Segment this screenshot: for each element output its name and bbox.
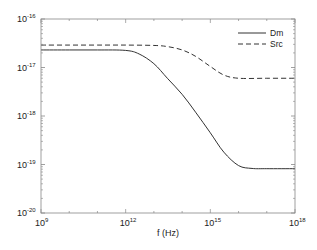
x-axis-label: f (Hz): [157, 228, 179, 238]
legend-label-dm: Dm: [270, 28, 283, 38]
chart: 109101210151018 10-1610-1710-1810-1910-2…: [0, 0, 317, 250]
legend-label-src: Src: [270, 39, 284, 49]
